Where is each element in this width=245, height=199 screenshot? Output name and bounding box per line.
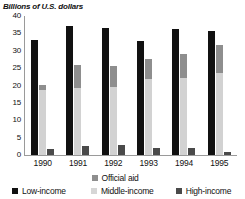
bar-segment-official-aid-1991[interactable] xyxy=(74,65,81,88)
chart-container: Billions of U.S. dollars 403530252015105… xyxy=(0,0,245,199)
bar-low-income-1992[interactable] xyxy=(102,28,109,155)
legend-item-low-income[interactable]: Low-income xyxy=(0,186,91,196)
bar-low-income-1990[interactable] xyxy=(31,40,38,155)
bar-middle-income-1990[interactable] xyxy=(39,85,46,155)
y-tick-25: 25 xyxy=(13,64,22,72)
y-tick-20: 20 xyxy=(13,82,22,90)
x-tick-1991: 1991 xyxy=(60,157,95,169)
bar-middle-income-1995[interactable] xyxy=(216,45,223,155)
bar-high-income-1995[interactable] xyxy=(224,152,231,155)
legend-label-low-income: Low-income xyxy=(22,186,66,196)
y-tick-30: 30 xyxy=(13,47,22,55)
bar-high-income-1993[interactable] xyxy=(153,148,160,155)
x-tick-labels: 199019911992199319941995 xyxy=(25,157,237,169)
legend-swatch-low-income-icon xyxy=(12,188,18,194)
bar-high-income-1994[interactable] xyxy=(188,148,195,155)
legend-label-high-income: High-income xyxy=(186,186,232,196)
bar-middle-income-1993[interactable] xyxy=(145,59,152,155)
y-tick-0: 0 xyxy=(17,151,21,159)
y-tick-10: 10 xyxy=(13,116,22,124)
bar-segment-official-aid-1995[interactable] xyxy=(216,45,223,73)
bar-high-income-1991[interactable] xyxy=(82,146,89,155)
legend-item-official-aid[interactable]: Official aid xyxy=(92,173,180,183)
legend-item-high-income[interactable]: High-income xyxy=(176,186,245,196)
chart-legend: Official aid Low-income Middle-income Hi… xyxy=(0,171,245,197)
bar-segment-official-aid-1993[interactable] xyxy=(145,59,152,78)
bar-high-income-1990[interactable] xyxy=(47,149,54,155)
bar-groups xyxy=(25,16,237,155)
bar-segment-official-aid-1990[interactable] xyxy=(39,85,46,91)
bar-group-1992 xyxy=(96,16,131,155)
bar-low-income-1994[interactable] xyxy=(172,29,179,155)
y-tick-40: 40 xyxy=(13,12,22,20)
x-tick-1995: 1995 xyxy=(202,157,237,169)
legend-label-middle-income: Middle-income xyxy=(101,186,154,196)
bar-middle-income-1994[interactable] xyxy=(180,54,187,155)
bar-low-income-1991[interactable] xyxy=(66,26,73,155)
bar-group-1990 xyxy=(25,16,60,155)
legend-row-bottom: Low-income Middle-income High-income xyxy=(0,184,245,197)
y-tick-5: 5 xyxy=(17,134,21,142)
bar-low-income-1993[interactable] xyxy=(137,41,144,155)
x-tick-1994: 1994 xyxy=(166,157,201,169)
x-tick-1992: 1992 xyxy=(96,157,131,169)
legend-label-official-aid: Official aid xyxy=(102,173,139,183)
x-tick-1990: 1990 xyxy=(25,157,60,169)
bar-group-1991 xyxy=(60,16,95,155)
plot-area: 4035302520151050 xyxy=(24,16,237,156)
bar-middle-income-1992[interactable] xyxy=(110,66,117,155)
bar-segment-official-aid-1994[interactable] xyxy=(180,54,187,78)
legend-swatch-middle-income-icon xyxy=(91,188,97,194)
x-tick-1993: 1993 xyxy=(131,157,166,169)
y-axis-title: Billions of U.S. dollars xyxy=(3,2,83,11)
bar-group-1994 xyxy=(166,16,201,155)
y-tick-15: 15 xyxy=(13,99,22,107)
bar-low-income-1995[interactable] xyxy=(208,31,215,155)
bar-high-income-1992[interactable] xyxy=(118,145,125,155)
bar-group-1995 xyxy=(202,16,237,155)
y-tick-35: 35 xyxy=(13,29,22,37)
legend-swatch-official-aid-icon xyxy=(92,175,98,181)
legend-item-middle-income[interactable]: Middle-income xyxy=(91,186,176,196)
bar-segment-official-aid-1992[interactable] xyxy=(110,66,117,87)
bar-middle-income-1991[interactable] xyxy=(74,65,81,155)
legend-row-top: Official aid xyxy=(0,171,245,184)
bar-group-1993 xyxy=(131,16,166,155)
x-axis-line xyxy=(24,155,237,156)
legend-swatch-high-income-icon xyxy=(176,188,182,194)
